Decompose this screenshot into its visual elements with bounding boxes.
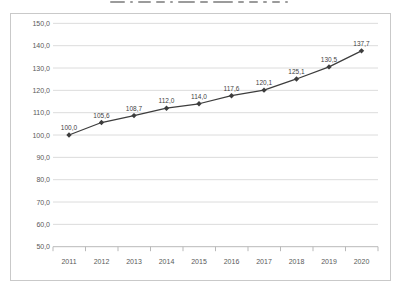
cropped-title-text [0, 1, 398, 4]
chart-frame [10, 13, 391, 281]
page: 150,0140,0130,0120,0110,0100,090,080,070… [0, 0, 398, 292]
